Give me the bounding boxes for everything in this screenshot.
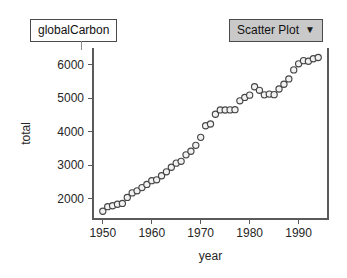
x-tick-label: 1980	[236, 226, 263, 240]
data-point[interactable]	[271, 92, 277, 98]
data-point[interactable]	[276, 86, 282, 92]
y-tick-label: 6000	[57, 58, 84, 72]
x-axis-ticks: 19501960197019801990	[89, 219, 312, 240]
y-axis-title: total	[19, 122, 33, 145]
data-point[interactable]	[281, 81, 287, 87]
data-point[interactable]	[178, 158, 184, 164]
data-point[interactable]	[315, 54, 321, 60]
x-tick-label: 1990	[285, 226, 312, 240]
plot-svg: 19501960197019801990 2000300040005000600…	[0, 0, 347, 278]
data-point[interactable]	[198, 134, 204, 140]
data-point[interactable]	[119, 200, 125, 206]
y-tick-label: 2000	[57, 192, 84, 206]
x-tick-label: 1960	[138, 226, 165, 240]
data-points[interactable]	[100, 54, 322, 214]
y-tick-label: 3000	[57, 158, 84, 172]
scatter-plot-canvas[interactable]: 19501960197019801990 2000300040005000600…	[0, 0, 347, 278]
scatter-plot-window: globalCarbon Scatter Plot ▼ 195019601970…	[0, 0, 347, 278]
plot-axes	[93, 48, 328, 219]
x-tick-label: 1970	[187, 226, 214, 240]
data-point[interactable]	[193, 142, 199, 148]
data-point[interactable]	[247, 92, 253, 98]
data-point[interactable]	[188, 148, 194, 154]
data-point[interactable]	[291, 67, 297, 73]
data-point[interactable]	[232, 107, 238, 113]
x-tick-label: 1950	[89, 226, 116, 240]
y-tick-label: 4000	[57, 125, 84, 139]
y-axis-ticks: 20003000400050006000	[57, 58, 93, 206]
x-axis-title: year	[199, 249, 222, 263]
y-tick-label: 5000	[57, 91, 84, 105]
axis-frame-line	[93, 48, 328, 219]
data-point[interactable]	[207, 121, 213, 127]
data-point[interactable]	[286, 76, 292, 82]
